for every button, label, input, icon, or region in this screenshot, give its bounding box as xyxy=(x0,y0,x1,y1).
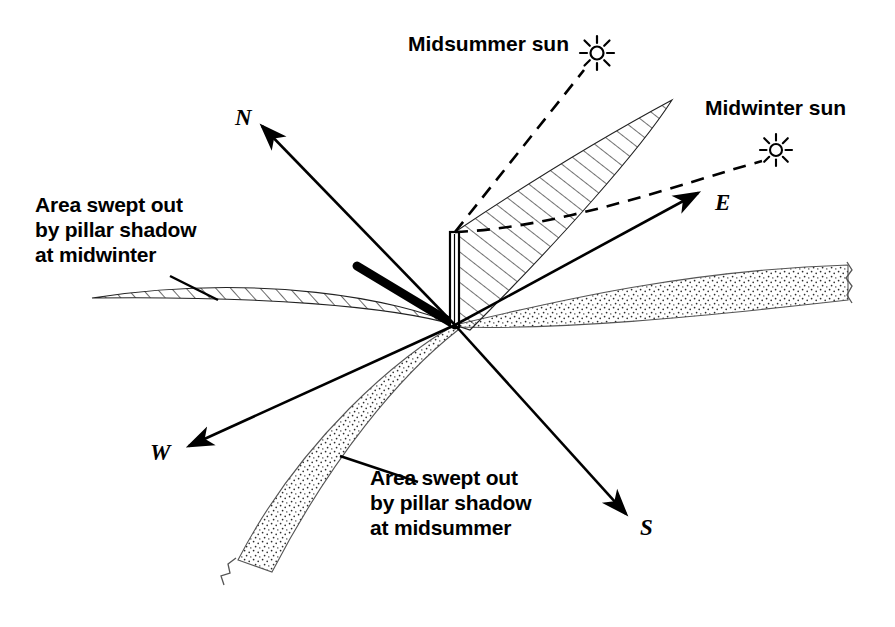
label-midwinter-sun: Midwinter sun xyxy=(705,96,846,120)
diagram-root: Area swept out by pillar shadow at midwi… xyxy=(0,0,895,627)
midsummer-shadow-band-southwest xyxy=(221,325,458,585)
compass-label-west: W xyxy=(150,440,170,466)
axis-west xyxy=(189,325,455,446)
sun-icon-midsummer xyxy=(580,36,614,70)
label-midsummer-sun: Midsummer sun xyxy=(408,32,569,56)
sun-icon-midwinter xyxy=(760,134,792,166)
compass-label-south: S xyxy=(640,515,653,541)
annotation-midwinter-area: Area swept out by pillar shadow at midwi… xyxy=(35,192,196,267)
compass-label-east: E xyxy=(715,190,730,216)
pillar xyxy=(450,232,459,327)
break-symbol-southwest xyxy=(221,558,236,585)
compass-label-north: N xyxy=(235,105,252,131)
annotation-midsummer-area: Area swept out by pillar shadow at midsu… xyxy=(370,465,531,540)
